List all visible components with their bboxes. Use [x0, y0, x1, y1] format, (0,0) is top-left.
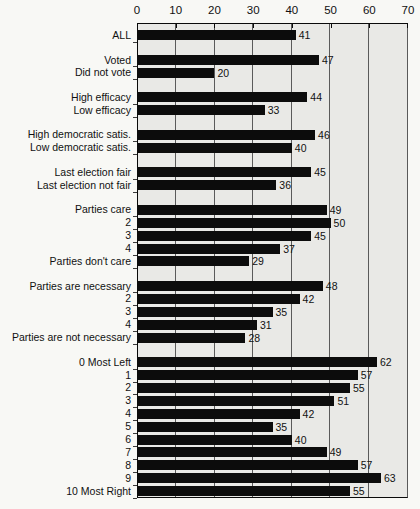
bar-row: 857	[0, 459, 408, 472]
bar-row: 749	[0, 446, 408, 459]
bar-row: Last election not fair36	[0, 179, 408, 192]
bar-value-label: 51	[334, 396, 349, 407]
category-label: 2	[0, 293, 137, 304]
bar-track: 57	[137, 460, 408, 470]
bar-row: Last election fair45	[0, 166, 408, 179]
bar-track: 42	[137, 409, 408, 419]
bar-row: 157	[0, 369, 408, 382]
bar	[137, 256, 249, 266]
category-label: 7	[0, 447, 137, 458]
bar-row: Low efficacy33	[0, 104, 408, 117]
bar-group: ALL41	[0, 29, 408, 42]
bar-track: 46	[137, 130, 408, 140]
x-axis-tick-mark	[253, 23, 254, 28]
x-axis-tick-label: 50	[324, 4, 337, 17]
bar-track: 44	[137, 92, 408, 102]
bar-row: 10 Most Right55	[0, 485, 408, 498]
bar-value-label: 37	[280, 244, 295, 255]
category-tick-mark	[133, 344, 137, 345]
bar	[137, 396, 334, 406]
bar-group: High efficacy44Low efficacy33	[0, 91, 408, 117]
bar	[137, 486, 350, 496]
bar	[137, 143, 292, 153]
bar-track: 41	[137, 30, 408, 40]
bar-value-label: 47	[319, 55, 334, 66]
bar-track: 36	[137, 180, 408, 190]
category-label: 8	[0, 460, 137, 471]
bar-row: 0 Most Left62	[0, 356, 408, 369]
bar-row: 351	[0, 394, 408, 407]
bar	[137, 205, 327, 215]
x-axis-tick-mark	[369, 23, 370, 28]
bar-value-label: 42	[300, 294, 315, 305]
category-label: 0 Most Left	[0, 357, 137, 368]
category-label: Low democratic satis.	[0, 142, 137, 153]
bar-value-label: 28	[245, 333, 260, 344]
bar-value-label: 36	[276, 180, 291, 191]
x-axis-tick-mark	[176, 23, 177, 28]
bar	[137, 383, 350, 393]
bar-track: 47	[137, 55, 408, 65]
bar-track: 45	[137, 231, 408, 241]
category-label: 3	[0, 395, 137, 406]
category-label: 3	[0, 230, 137, 241]
bar-row: High democratic satis.46	[0, 129, 408, 142]
x-axis-tick-mark	[214, 23, 215, 28]
bar-chart: 010203040506070 ALL41Voted47Did not vote…	[0, 0, 420, 509]
bar	[137, 320, 257, 330]
bar-track: 20	[137, 68, 408, 78]
category-label: Did not vote	[0, 67, 137, 78]
bar-group: Last election fair45Last election not fa…	[0, 166, 408, 192]
bar-value-label: 35	[273, 307, 288, 318]
bar-value-label: 29	[249, 256, 264, 267]
category-label: ALL	[0, 30, 137, 41]
bar	[137, 244, 280, 254]
category-label: 5	[0, 421, 137, 432]
bar-row: Voted47	[0, 54, 408, 67]
bar-group: Parties care49250345437Parties don't car…	[0, 203, 408, 267]
bar	[137, 231, 311, 241]
bar-value-label: 40	[292, 435, 307, 446]
bar-value-label: 46	[315, 130, 330, 141]
category-label: High democratic satis.	[0, 129, 137, 140]
x-axis-tick-mark	[292, 23, 293, 28]
bar	[137, 92, 307, 102]
bar	[137, 307, 273, 317]
bar-group: High democratic satis.46Low democratic s…	[0, 129, 408, 155]
bar-track: 35	[137, 422, 408, 432]
bar-track: 31	[137, 320, 408, 330]
bar-value-label: 49	[327, 205, 342, 216]
bar	[137, 105, 265, 115]
category-label: Last election not fair	[0, 180, 137, 191]
bar	[137, 180, 276, 190]
bar-row: Parties are not necessary28	[0, 331, 408, 344]
bar-row: ALL41	[0, 29, 408, 42]
bar-row: Did not vote20	[0, 66, 408, 79]
category-tick-mark	[133, 79, 137, 80]
category-label: 9	[0, 473, 137, 484]
category-label: 1	[0, 370, 137, 381]
bar	[137, 333, 245, 343]
bar	[137, 435, 292, 445]
bar-track: 57	[137, 370, 408, 380]
category-label: 10 Most Right	[0, 486, 137, 497]
bar-track: 33	[137, 105, 408, 115]
bar-track: 62	[137, 357, 408, 367]
bar-value-label: 50	[331, 218, 346, 229]
x-axis-tick-label: 40	[285, 4, 298, 17]
bar-row: 335	[0, 305, 408, 318]
x-axis-tick-label: 0	[134, 4, 140, 17]
bar-row: 963	[0, 472, 408, 485]
bar	[137, 473, 381, 483]
rows-container: ALL41Voted47Did not vote20High efficacy4…	[0, 23, 408, 498]
bar	[137, 409, 300, 419]
bar-row: High efficacy44	[0, 91, 408, 104]
bar-value-label: 45	[311, 167, 326, 178]
bar-track: 55	[137, 383, 408, 393]
bar-track: 40	[137, 143, 408, 153]
bar-track: 63	[137, 473, 408, 483]
bar-track: 37	[137, 244, 408, 254]
bar-group: Parties are necessary48242335431Parties …	[0, 280, 408, 344]
category-label: 3	[0, 306, 137, 317]
bar-track: 45	[137, 167, 408, 177]
